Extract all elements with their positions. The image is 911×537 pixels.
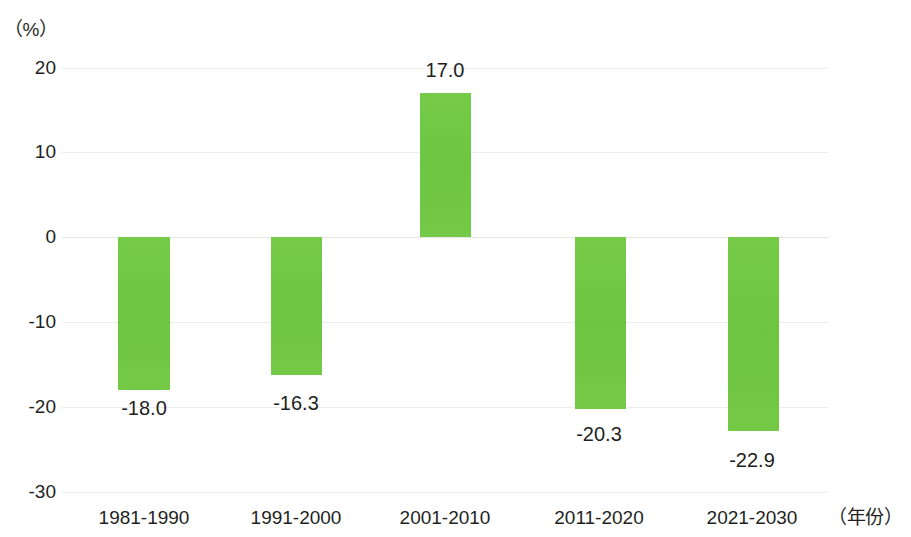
y-tick-label: -30 bbox=[8, 482, 56, 501]
bar-value-label-2021-2030: -22.9 bbox=[692, 450, 812, 470]
bar-1981-1990 bbox=[118, 237, 170, 390]
bar-1991-2000 bbox=[271, 237, 322, 375]
x-tick-label-1991-2000: 1991-2000 bbox=[236, 508, 356, 528]
gridline-0 bbox=[62, 237, 828, 238]
bar-value-label-1991-2000: -16.3 bbox=[236, 393, 356, 413]
y-tick-label: 20 bbox=[8, 58, 56, 77]
bar-2011-2020 bbox=[575, 237, 626, 409]
gridline-n30 bbox=[62, 492, 828, 493]
bar-2021-2030 bbox=[728, 237, 779, 431]
bar-value-label-2011-2020: -20.3 bbox=[539, 424, 659, 444]
bar-chart: （%） 20 10 0 -10 -20 -30 -18.0 -16.3 17.0… bbox=[0, 0, 911, 537]
bar-value-label-2001-2010: 17.0 bbox=[385, 60, 505, 80]
y-axis-unit-label: （%） bbox=[4, 14, 57, 41]
bar-value-label-1981-1990: -18.0 bbox=[84, 398, 204, 418]
plot-area bbox=[62, 60, 828, 500]
y-tick-label: -20 bbox=[8, 397, 56, 416]
y-tick-label: 10 bbox=[8, 142, 56, 161]
gridline-n10 bbox=[62, 322, 828, 323]
bar-2001-2010 bbox=[420, 93, 471, 237]
y-tick-label: -10 bbox=[8, 312, 56, 331]
x-axis-unit-label: （年份） bbox=[828, 508, 902, 528]
x-tick-label-2021-2030: 2021-2030 bbox=[692, 508, 812, 528]
x-tick-label-2001-2010: 2001-2010 bbox=[385, 508, 505, 528]
y-tick-label: 0 bbox=[8, 227, 56, 246]
x-tick-label-2011-2020: 2011-2020 bbox=[539, 508, 659, 528]
x-tick-label-1981-1990: 1981-1990 bbox=[84, 508, 204, 528]
y-axis-tick-labels: 20 10 0 -10 -20 -30 bbox=[0, 60, 56, 500]
